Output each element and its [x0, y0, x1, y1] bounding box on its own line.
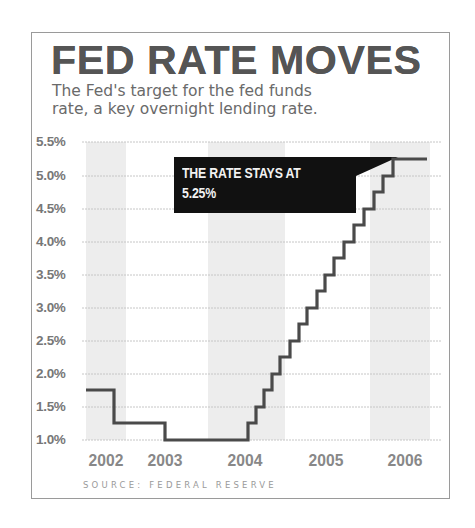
plot-area — [0, 0, 475, 528]
y-tick-label: 1.5% — [36, 400, 82, 414]
y-tick-label: 2.0% — [36, 367, 82, 381]
x-tick-label: 2003 — [137, 451, 192, 471]
y-tick-label: 5.0% — [36, 169, 82, 183]
year-band-2006 — [370, 142, 430, 440]
y-tick-label: 3.0% — [36, 301, 82, 315]
annotation-line-2: 5.25% — [182, 183, 332, 203]
x-tick-label: 2006 — [377, 451, 432, 471]
y-tick-label: 3.5% — [36, 268, 82, 282]
source-note: SOURCE: FEDERAL RESERVE — [83, 480, 277, 490]
x-tick-label: 2004 — [217, 451, 272, 471]
y-tick-label: 4.0% — [36, 235, 82, 249]
annotation-line-1: THE RATE STAYS AT — [182, 163, 332, 183]
y-tick-label: 5.5% — [36, 135, 82, 149]
y-tick-label: 4.5% — [36, 202, 82, 216]
x-tick-label: 2005 — [298, 451, 353, 471]
annotation-text: THE RATE STAYS AT 5.25% — [182, 163, 332, 203]
x-tick-label: 2002 — [78, 451, 133, 471]
y-tick-label: 2.5% — [36, 334, 82, 348]
year-band-2002 — [86, 142, 126, 440]
y-tick-label: 1.0% — [36, 433, 82, 447]
